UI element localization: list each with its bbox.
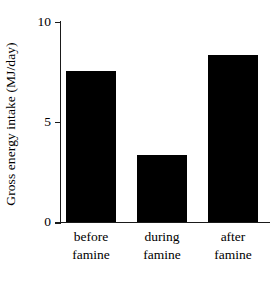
x-category-line-2: famine — [122, 246, 202, 264]
bar-before-famine — [66, 71, 116, 222]
bar-during-famine — [137, 155, 187, 221]
figure-caption-fragment — [0, 272, 277, 282]
bar-chart-figure: Gross energy intake (MJ/day) 10 5 0 befo… — [0, 0, 277, 282]
x-category-label-before-famine: before famine — [51, 228, 131, 263]
y-tick-mark-5 — [55, 122, 61, 123]
plot-area: 10 5 0 — [60, 21, 270, 223]
x-axis-line — [60, 222, 270, 223]
y-tick-label-0: 0 — [44, 213, 51, 230]
y-tick-label-10: 10 — [38, 13, 52, 30]
x-category-line-1: after — [193, 228, 273, 246]
x-category-line-1: before — [51, 228, 131, 246]
x-category-line-2: famine — [51, 246, 131, 264]
bar-after-famine — [208, 55, 258, 222]
x-category-line-1: during — [122, 228, 202, 246]
x-category-label-during-famine: during famine — [122, 228, 202, 263]
y-tick-mark-0 — [55, 222, 61, 223]
x-category-line-2: famine — [193, 246, 273, 264]
y-tick-label-5: 5 — [44, 113, 51, 130]
x-axis-category-labels: before famine during famine after famine — [60, 228, 270, 266]
y-axis-label: Gross energy intake (MJ/day) — [0, 19, 22, 229]
x-category-label-after-famine: after famine — [193, 228, 273, 263]
y-tick-mark-10 — [55, 22, 61, 23]
